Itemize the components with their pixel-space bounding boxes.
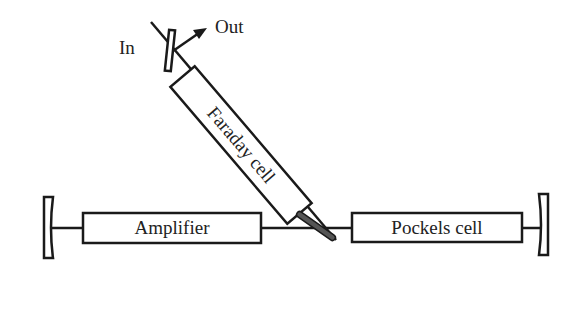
input-polarizer — [165, 30, 175, 71]
output-label: Out — [215, 16, 244, 37]
pockels-cell-label: Pockels cell — [391, 217, 482, 238]
left-mirror — [44, 197, 53, 258]
output-arrow-icon — [173, 28, 207, 51]
pockels-cell: Pockels cell — [352, 213, 522, 242]
right-mirror — [539, 194, 548, 255]
laser-diagram: Amplifier Pockels cell Faraday cell In O… — [0, 0, 583, 314]
faraday-cell-label: Faraday cell — [203, 102, 280, 187]
amplifier: Amplifier — [83, 213, 261, 243]
input-label: In — [119, 37, 135, 58]
amplifier-label: Amplifier — [135, 217, 211, 238]
faraday-cell: Faraday cell — [170, 66, 311, 224]
